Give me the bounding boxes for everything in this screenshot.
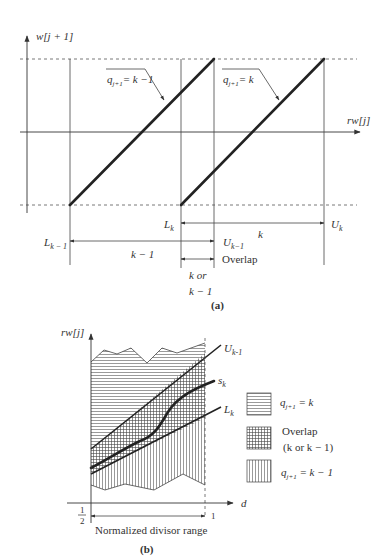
label-L-k: Lk xyxy=(163,218,174,233)
label-s-k-curve: sk xyxy=(218,374,226,389)
label-U-k-minus-1: Uk−1 xyxy=(223,236,244,251)
figure-b: rw[j] d 1 2 1 Normalized divisor range (… xyxy=(61,326,334,556)
legend-label-overlap-detail: (k or k − 1) xyxy=(283,441,334,454)
overlap-k-minus-1-label: k − 1 xyxy=(189,285,212,297)
caption-b: (b) xyxy=(140,543,154,556)
legend-label-overlap: Overlap xyxy=(282,425,318,437)
x-end-label: 1 xyxy=(211,511,216,521)
figure-a: w[j + 1] rw[j] qj+1= k −1 qj+1= k Lk Uk … xyxy=(20,30,370,312)
d-axis-label: d xyxy=(241,497,247,509)
label-L-k-curve: Lk xyxy=(223,403,234,418)
x-start-denominator: 2 xyxy=(80,516,85,526)
legend-label-q-k-minus-1: qj+1 = k − 1 xyxy=(281,466,333,481)
label-q-k: qj+1= k xyxy=(223,73,255,88)
rw-axis-label-b: rw[j] xyxy=(61,326,84,338)
range-k-label: k xyxy=(258,228,264,240)
label-U-km1-curve: Uk-1 xyxy=(224,342,242,357)
overlap-label: Overlap xyxy=(222,253,258,265)
legend-swatch-q-k-minus-1 xyxy=(247,460,271,482)
rw-axis-label: rw[j] xyxy=(347,114,370,126)
legend-swatch-overlap xyxy=(247,427,271,449)
overlap-k-or-label: k or xyxy=(189,269,207,281)
x-start-numerator: 1 xyxy=(80,505,85,515)
range-k-minus-1-label: k − 1 xyxy=(131,248,154,260)
label-L-k-minus-1: Lk − 1 xyxy=(43,236,67,251)
label-U-k: Uk xyxy=(331,218,343,233)
figure-canvas: w[j + 1] rw[j] qj+1= k −1 qj+1= k Lk Uk … xyxy=(0,0,388,556)
legend-swatch-q-k xyxy=(247,393,271,415)
w-axis-label: w[j + 1] xyxy=(36,30,73,42)
label-q-k-minus-1: qj+1= k −1 xyxy=(107,73,153,88)
selection-regions xyxy=(91,340,210,500)
normalized-divisor-range-label: Normalized divisor range xyxy=(95,524,208,536)
legend-label-q-k: qj+1 = k xyxy=(280,396,315,411)
legend: qj+1 = k Overlap (k or k − 1) qj+1 = k −… xyxy=(247,393,334,482)
caption-a: (a) xyxy=(211,299,224,312)
